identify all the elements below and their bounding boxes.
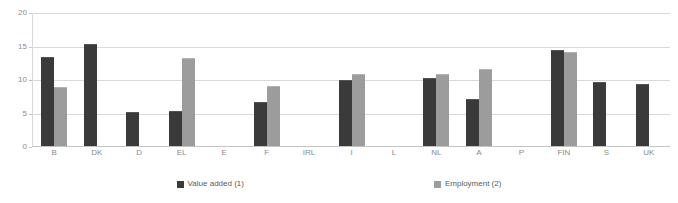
y-axis-tick-mark bbox=[29, 147, 32, 148]
y-axis-tick-label: 5 bbox=[23, 110, 27, 118]
y-axis-tick-label: 20 bbox=[18, 9, 27, 17]
x-axis-tick-label: F bbox=[245, 149, 287, 157]
bar-value-added bbox=[593, 82, 606, 146]
x-axis-tick-label: NL bbox=[415, 149, 457, 157]
bar-value-added bbox=[636, 84, 649, 146]
x-axis-tick-label: IRL bbox=[288, 149, 330, 157]
bar-group bbox=[118, 13, 160, 146]
legend-swatch-value-added bbox=[177, 181, 184, 188]
bar-employment bbox=[479, 69, 492, 146]
bar-value-added bbox=[551, 50, 564, 146]
y-axis-tick-mark bbox=[29, 114, 32, 115]
y-axis-tick-label: 15 bbox=[18, 43, 27, 51]
y-axis-tick-label: 0 bbox=[23, 143, 27, 151]
x-axis-tick-label: P bbox=[500, 149, 542, 157]
bar-group bbox=[288, 13, 330, 146]
bar-employment bbox=[352, 74, 365, 146]
x-axis-tick-label: I bbox=[330, 149, 372, 157]
bar-value-added bbox=[84, 44, 97, 146]
bar-employment bbox=[564, 52, 577, 146]
x-axis-line bbox=[32, 146, 670, 147]
bar-value-added bbox=[126, 112, 139, 146]
y-axis-tick-mark bbox=[29, 80, 32, 81]
bar-group bbox=[585, 13, 627, 146]
bar-group bbox=[373, 13, 415, 146]
y-axis-tick-mark bbox=[29, 47, 32, 48]
x-axis-labels: BDKDELEFIRLILNLAPFINSUK bbox=[33, 149, 670, 157]
bar-value-added bbox=[339, 80, 352, 146]
bar-group bbox=[75, 13, 117, 146]
bars-layer bbox=[33, 13, 670, 146]
legend-item[interactable]: Value added (1) bbox=[177, 180, 244, 188]
legend-label: Value added (1) bbox=[188, 180, 244, 188]
bar-employment bbox=[267, 86, 280, 146]
x-axis-tick-label: FIN bbox=[543, 149, 585, 157]
plot-area: 05101520 bbox=[32, 13, 670, 147]
bar-group bbox=[160, 13, 202, 146]
bar-group bbox=[458, 13, 500, 146]
x-axis-tick-label: E bbox=[203, 149, 245, 157]
bar-value-added bbox=[423, 78, 436, 146]
legend-item[interactable]: Employment (2) bbox=[434, 180, 501, 188]
x-axis-tick-label: B bbox=[33, 149, 75, 157]
bar-value-added bbox=[466, 99, 479, 146]
y-axis-tick-label: 10 bbox=[18, 76, 27, 84]
x-axis-tick-label: A bbox=[458, 149, 500, 157]
x-axis-tick-label: EL bbox=[160, 149, 202, 157]
bar-group bbox=[628, 13, 670, 146]
x-axis-tick-label: DK bbox=[75, 149, 117, 157]
bar-group bbox=[330, 13, 372, 146]
y-axis-tick-mark bbox=[29, 13, 32, 14]
bar-group bbox=[415, 13, 457, 146]
bar-group bbox=[245, 13, 287, 146]
bar-chart: 05101520 BDKDELEFIRLILNLAPFINSUK Value a… bbox=[0, 0, 678, 203]
legend-label: Employment (2) bbox=[445, 180, 501, 188]
bar-group bbox=[543, 13, 585, 146]
bar-employment bbox=[54, 87, 67, 146]
x-axis-tick-label: UK bbox=[628, 149, 670, 157]
x-axis-tick-label: S bbox=[585, 149, 627, 157]
chart-legend: Value added (1)Employment (2) bbox=[0, 180, 678, 188]
bar-value-added bbox=[254, 102, 267, 146]
bar-group bbox=[203, 13, 245, 146]
legend-swatch-employment bbox=[434, 181, 441, 188]
bar-value-added bbox=[41, 57, 54, 146]
bar-employment bbox=[436, 74, 449, 146]
x-axis-tick-label: L bbox=[373, 149, 415, 157]
bar-employment bbox=[182, 58, 195, 146]
bar-group bbox=[33, 13, 75, 146]
x-axis-tick-label: D bbox=[118, 149, 160, 157]
bar-group bbox=[500, 13, 542, 146]
bar-value-added bbox=[169, 111, 182, 147]
